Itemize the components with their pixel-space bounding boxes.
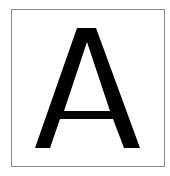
letter-a-glyph: [0, 0, 170, 176]
